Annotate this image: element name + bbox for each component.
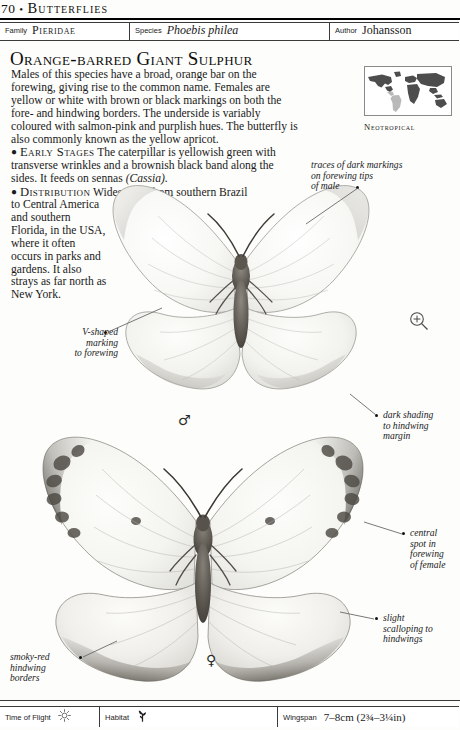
- early-stages-heading: Early Stages: [20, 145, 95, 159]
- distribution-narrow-column: to Central America and southern Florida,…: [11, 199, 107, 302]
- species-label: Species: [135, 26, 162, 35]
- leader-line-smoky-red: [81, 638, 121, 660]
- male-symbol: ♂: [178, 412, 191, 428]
- running-head-title: Butterflies: [28, 0, 109, 17]
- sun-icon: [58, 708, 71, 726]
- footer-bar: Time of Flight: [0, 706, 459, 727]
- bullet-early: ●: [11, 146, 17, 157]
- page-title: Orange-barred Giant Sulphur: [10, 48, 330, 70]
- wingspan-value: 7–8cm (2¾–3¼in): [324, 711, 406, 723]
- running-head-separator: •: [19, 3, 23, 15]
- running-head: 70 • Butterflies: [0, 0, 460, 17]
- annotation-smoky-red-borders: smoky-red hindwing borders: [10, 652, 76, 684]
- female-symbol: ♀: [206, 652, 216, 668]
- female-butterfly-specimen: [18, 425, 388, 690]
- leader-line-slight-scalloping: [338, 608, 378, 624]
- bullet-distribution: ●: [11, 186, 17, 197]
- distribution-map: [364, 66, 452, 116]
- annotation-slight-scalloping: slight scalloping to hindwings: [383, 613, 459, 645]
- field-guide-page: 70 • Butterflies Family Pieridae Species…: [0, 0, 460, 730]
- wingspan-cell: Wingspan 7–8cm (2¾–3¼in): [278, 707, 459, 727]
- leader-line-v-shaped-marking: [106, 306, 168, 336]
- leader-line-dark-shading: [348, 392, 384, 420]
- annotation-dark-shading-hindwing: dark shading to hindwing margin: [383, 410, 459, 442]
- intro-paragraph: Males of this species have a broad, oran…: [11, 69, 299, 146]
- world-map-svg: [365, 67, 451, 115]
- habitat-cell: Habitat: [100, 707, 278, 727]
- leader-line-central-spot: [362, 520, 406, 540]
- taxonomy-species-cell: Species Phoebis philea: [130, 23, 330, 40]
- family-value: Pieridae: [32, 23, 75, 38]
- taxonomy-family-cell: Family Pieridae: [0, 23, 130, 40]
- species-value: Phoebis philea: [167, 23, 239, 38]
- leader-line-male-forewing-tips: [300, 180, 370, 230]
- distribution-heading: Distribution: [20, 185, 90, 199]
- taxonomy-author-cell: Author Johansson: [330, 23, 459, 40]
- author-value: Johansson: [362, 23, 411, 38]
- time-of-flight-cell: Time of Flight: [0, 707, 100, 727]
- footer-rule: [0, 700, 460, 701]
- time-of-flight-label: Time of Flight: [5, 713, 51, 722]
- page-folio: 70: [1, 1, 15, 17]
- taxonomy-bar: Family Pieridae Species Phoebis philea A…: [0, 22, 459, 41]
- map-caption: Neotropical: [364, 122, 454, 132]
- family-label: Family: [5, 26, 27, 35]
- magnifier-plus-icon: [408, 310, 430, 332]
- plant-icon: [136, 708, 149, 726]
- author-label: Author: [335, 26, 357, 35]
- header-rule: [0, 18, 460, 20]
- wingspan-label: Wingspan: [283, 713, 317, 722]
- annotation-central-spot-female: central spot in forewing of female: [410, 528, 460, 570]
- habitat-label: Habitat: [105, 713, 129, 722]
